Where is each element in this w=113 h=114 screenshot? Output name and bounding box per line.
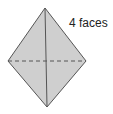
- faces-label: 4 faces: [69, 16, 108, 30]
